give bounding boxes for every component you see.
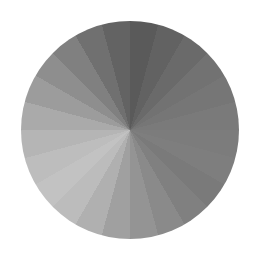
- grayscale-wheel: [21, 21, 239, 239]
